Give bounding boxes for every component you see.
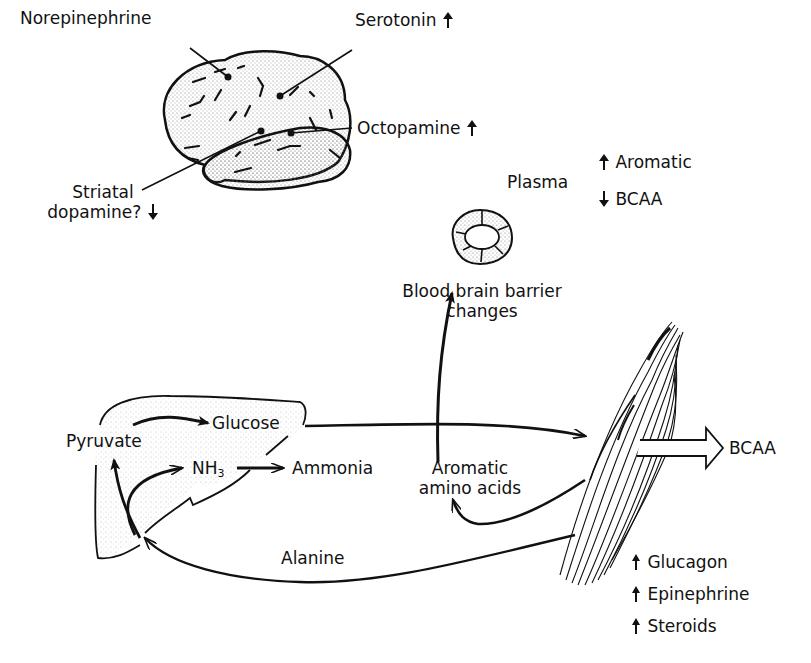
norepinephrine-label: Norepinephrine	[20, 8, 151, 28]
blood-brain-barrier-label: Blood brain barrier changes	[372, 281, 592, 321]
arrow-up-icon	[630, 585, 642, 603]
blood-brain-barrier-ring-icon	[453, 210, 512, 264]
glucose-label: Glucose	[212, 413, 280, 433]
ammonia-label: Ammonia	[292, 458, 373, 478]
glucose-to-muscle-arrow	[305, 424, 585, 436]
arrow-down-icon	[147, 203, 159, 221]
arrow-up-icon	[630, 553, 642, 571]
octopamine-label: Octopamine	[357, 118, 478, 138]
nh3-label: NH3	[192, 458, 225, 484]
plasma-aromatic-label: Aromatic	[598, 152, 692, 172]
bcaa-output-label: BCAA	[729, 438, 776, 458]
brain-illustration	[142, 48, 352, 190]
alanine-return-arrow	[145, 535, 575, 582]
arrow-up-icon	[598, 153, 610, 171]
arrow-up-icon	[442, 11, 454, 29]
serotonin-label: Serotonin	[355, 10, 454, 30]
alanine-label: Alanine	[281, 548, 345, 568]
epinephrine-label: Epinephrine	[630, 584, 749, 604]
plasma-label: Plasma	[507, 172, 568, 192]
plasma-bcaa-label: BCAA	[598, 189, 662, 209]
glucagon-label: Glucagon	[630, 552, 728, 572]
arrow-down-icon	[598, 190, 610, 208]
striatal-dopamine-label: Striatal dopamine?	[38, 182, 168, 222]
steroids-label: Steroids	[630, 616, 717, 636]
arrow-up-icon	[630, 617, 642, 635]
aromatic-amino-acids-label: Aromatic amino acids	[395, 458, 545, 498]
arrow-up-icon	[466, 119, 478, 137]
pyruvate-label: Pyruvate	[66, 431, 142, 451]
